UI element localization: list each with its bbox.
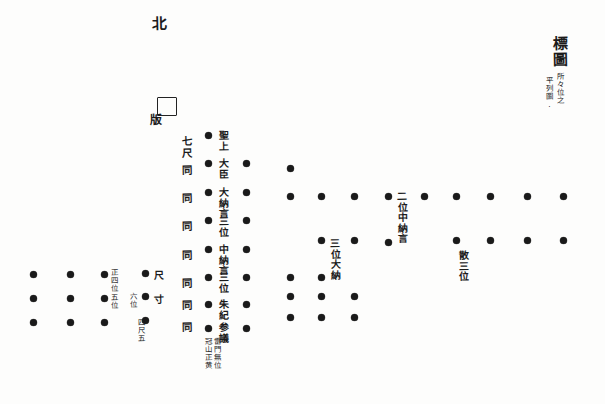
seat-dot-left: [67, 295, 74, 302]
rank-entry-1: 大臣: [217, 158, 228, 179]
seat-dot-main: [205, 189, 212, 196]
scale-entry-6: 同: [181, 300, 192, 312]
scale-entry-7: 同: [181, 322, 192, 334]
footer-note-left: 冠山正黄: [204, 337, 212, 369]
left-label-rokui: 六位: [129, 292, 137, 308]
seat-dot-left: [67, 319, 74, 326]
rank-entry-6: 朱紀: [217, 299, 228, 320]
seat-dot-main: [243, 189, 250, 196]
seat-dot-main: [205, 325, 212, 332]
seat-dot-left: [30, 319, 37, 326]
left-label-shohachii: 正四位: [110, 268, 118, 292]
seat-dot-main: [318, 237, 325, 244]
seat-dot-main: [560, 237, 567, 244]
title-annotation-right: 所々位之: [556, 72, 564, 104]
seat-dot-main: [205, 301, 212, 308]
seat-dot-main: [524, 237, 531, 244]
diagram-title: 標圖: [551, 36, 567, 68]
scale-entry-5: 同: [181, 278, 192, 290]
scale-entry-1: 同: [181, 165, 192, 177]
seat-dot-main: [385, 193, 392, 200]
seat-dot-left: [101, 271, 108, 278]
footer-note-right: 雷門無位: [212, 337, 220, 369]
seat-dot-main: [243, 246, 250, 253]
seat-dot-main: [560, 193, 567, 200]
seat-dot-left: [101, 319, 108, 326]
seat-dot-left: [142, 270, 149, 277]
diagram-canvas: 北 版 標圖 所々位之 平列圖. 七尺 同 同 同 同 同 同 同 聖上 大臣 …: [0, 0, 605, 404]
seat-dot-main: [318, 193, 325, 200]
north-orientation-label: 北: [150, 16, 166, 32]
seat-dot-main: [318, 314, 325, 321]
seat-dot-left: [30, 271, 37, 278]
seat-dot-main: [318, 293, 325, 300]
rank-entry-0: 聖上: [217, 130, 228, 151]
rank-entry-5: 三位: [217, 272, 228, 293]
seat-dot-left: [142, 293, 149, 300]
seat-dot-left: [67, 271, 74, 278]
seat-dot-main: [318, 274, 325, 281]
seat-dot-main: [351, 314, 358, 321]
seat-dot-main: [205, 246, 212, 253]
seat-dot-main: [205, 132, 212, 139]
seat-dot-main: [421, 193, 428, 200]
field-label-san-sanmi: 散三位: [457, 250, 468, 282]
left-label-goi: 五位: [110, 293, 118, 309]
seat-dot-main: [205, 217, 212, 224]
footer-note: 雷門無位 冠山正黄: [204, 337, 220, 369]
field-label-nii-chunagon: 二位中納言: [395, 191, 406, 244]
field-label-sanmi-dainagon: 三位大納: [329, 238, 340, 280]
seat-dot-main: [351, 293, 358, 300]
seat-dot-main: [243, 217, 250, 224]
seat-dot-main: [287, 274, 294, 281]
seat-dot-main: [453, 193, 460, 200]
seat-dot-main: [243, 160, 250, 167]
seat-dot-left: [101, 295, 108, 302]
scale-entry-3: 同: [181, 221, 192, 233]
left-label-shaku: 尺: [152, 270, 162, 281]
rank-entry-3: 三位: [217, 216, 228, 237]
rank-entry-4: 中納言: [217, 244, 228, 276]
seat-dot-main: [453, 237, 460, 244]
dais-label: 版: [148, 113, 160, 126]
seat-dot-left: [30, 295, 37, 302]
seat-dot-left: [142, 317, 149, 324]
seat-dot-main: [243, 274, 250, 281]
seat-dot-main: [287, 293, 294, 300]
left-label-sun: 寸: [152, 294, 162, 305]
seat-dot-main: [487, 193, 494, 200]
seat-dot-main: [351, 193, 358, 200]
seat-dot-main: [287, 193, 294, 200]
seat-dot-main: [243, 325, 250, 332]
seat-dot-main: [243, 301, 250, 308]
seat-dot-main: [287, 165, 294, 172]
scale-entry-0: 七尺: [181, 136, 192, 159]
seat-dot-main: [287, 314, 294, 321]
scale-entry-4: 同: [181, 250, 192, 262]
seat-dot-main: [205, 274, 212, 281]
title-annotation-left: 平列圖.: [545, 76, 553, 109]
rank-entry-2: 大納言: [217, 187, 228, 219]
seat-dot-main: [385, 239, 392, 246]
scale-entry-2: 同: [181, 193, 192, 205]
seat-dot-main: [205, 160, 212, 167]
seat-dot-main: [524, 193, 531, 200]
seat-dot-main: [351, 237, 358, 244]
seat-dot-main: [487, 237, 494, 244]
